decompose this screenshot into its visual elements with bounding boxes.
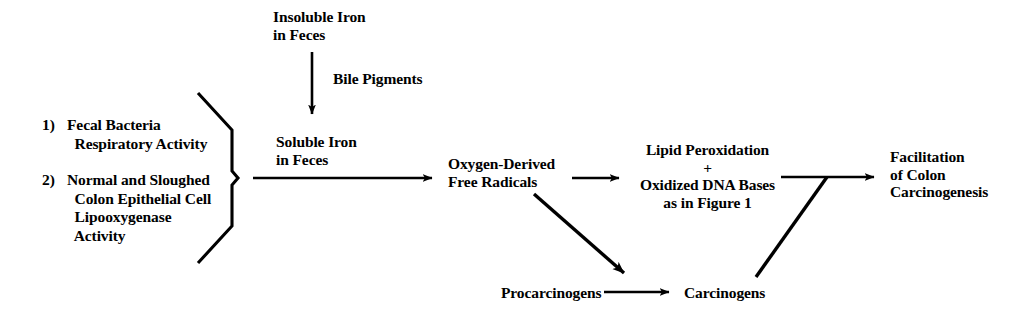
node-lipid-peroxidation: Lipid Peroxidation + Oxidized DNA Bases … — [625, 141, 790, 212]
node-facilitation: Facilitation of Colon Carcinogenesis — [890, 148, 988, 201]
node-soluble-iron: Soluble Iron in Feces — [276, 133, 357, 168]
edge-label-bile-pigments: Bile Pigments — [333, 70, 423, 88]
arrow-free-radicals-to-carcinogens — [534, 194, 624, 273]
source-list-item-1: Fecal Bacteria Respiratory Activity — [67, 116, 207, 153]
source-list-marker-2: 2) — [42, 171, 55, 190]
source-list-item-2: Normal and Sloughed Colon Epithelial Cel… — [67, 171, 211, 245]
node-carcinogens: Carcinogens — [684, 284, 765, 302]
source-list-marker-1: 1) — [42, 116, 55, 135]
node-insoluble-iron: Insoluble Iron in Feces — [273, 8, 366, 43]
node-free-radicals: Oxygen-Derived Free Radicals — [448, 155, 555, 190]
node-procarcinogens: Procarcinogens — [501, 284, 602, 302]
diagram-canvas: 1) Fecal Bacteria Respiratory Activity 2… — [0, 0, 1036, 323]
